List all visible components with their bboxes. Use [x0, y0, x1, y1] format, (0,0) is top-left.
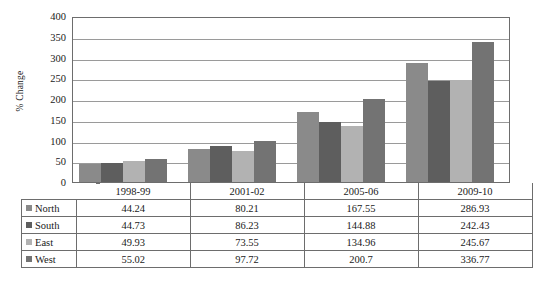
bar-north-1998-99: [79, 164, 101, 182]
bar-east-2001-02: [232, 151, 254, 182]
legend-swatch-icon-east: [26, 239, 32, 245]
table-row: North44.2480.21167.55286.93: [22, 200, 533, 217]
y-tick-label-50: 50: [26, 157, 66, 167]
chart-figure: % Change 400350300250200150100500 1998-9…: [0, 0, 540, 285]
table-cell-north-2005-06: 167.55: [304, 200, 418, 217]
plot-area: [72, 17, 510, 183]
legend-item-north: North: [22, 200, 77, 217]
table-cell-east-2001-02: 73.55: [190, 234, 304, 251]
bar-north-2005-06: [297, 112, 319, 182]
bar-group-2009-10: [400, 18, 509, 182]
bar-south-1998-99: [101, 163, 123, 182]
table-cell-south-2009-10: 242.43: [418, 217, 532, 234]
legend-item-east: East: [22, 234, 77, 251]
legend-swatch-icon-north: [26, 205, 32, 211]
y-axis-title: % Change: [15, 41, 25, 141]
table-period-header-2009-10: 2009-10: [418, 183, 532, 200]
table-cell-north-2009-10: 286.93: [418, 200, 532, 217]
table-header-row: 1998-992001-022005-062009-10: [22, 183, 533, 200]
legend-label: North: [35, 203, 60, 214]
table-cell-south-2005-06: 144.88: [304, 217, 418, 234]
y-axis-tick-labels: 400350300250200150100500: [26, 0, 66, 190]
legend-item-south: South: [22, 217, 77, 234]
table-cell-north-1998-99: 44.24: [77, 200, 191, 217]
bars-layer: [73, 18, 509, 182]
bar-group-2001-02: [182, 18, 291, 182]
data-table: 1998-992001-022005-062009-10North44.2480…: [21, 183, 533, 268]
table-corner-cell: [22, 183, 77, 200]
table-cell-west-2001-02: 97.72: [190, 251, 304, 268]
bar-north-2009-10: [406, 63, 428, 182]
y-tick-label-350: 350: [26, 33, 66, 43]
table-row: East49.9373.55134.96245.67: [22, 234, 533, 251]
table-cell-east-2005-06: 134.96: [304, 234, 418, 251]
table-cell-south-2001-02: 86.23: [190, 217, 304, 234]
legend-label: South: [35, 220, 60, 231]
table-cell-west-2005-06: 200.7: [304, 251, 418, 268]
bar-south-2009-10: [428, 81, 450, 182]
y-tick-label-300: 300: [26, 54, 66, 64]
y-tick-label-100: 100: [26, 137, 66, 147]
bar-group-1998-99: [73, 18, 182, 182]
bar-west-2001-02: [254, 141, 276, 182]
legend-swatch-icon-west: [26, 256, 32, 262]
y-tick-label-200: 200: [26, 95, 66, 105]
table-cell-north-2001-02: 80.21: [190, 200, 304, 217]
bar-south-2001-02: [210, 146, 232, 182]
table-cell-west-2009-10: 336.77: [418, 251, 532, 268]
table-period-header-2005-06: 2005-06: [304, 183, 418, 200]
table-period-header-1998-99: 1998-99: [77, 183, 191, 200]
table-period-header-2001-02: 2001-02: [190, 183, 304, 200]
table-cell-east-2009-10: 245.67: [418, 234, 532, 251]
bar-west-1998-99: [145, 159, 167, 182]
y-tick-label-400: 400: [26, 12, 66, 22]
bar-south-2005-06: [319, 122, 341, 182]
legend-label: West: [35, 254, 56, 265]
bar-north-2001-02: [188, 149, 210, 182]
legend-item-west: West: [22, 251, 77, 268]
table-cell-east-1998-99: 49.93: [77, 234, 191, 251]
bar-west-2009-10: [472, 42, 494, 182]
table-cell-west-1998-99: 55.02: [77, 251, 191, 268]
bar-east-2005-06: [341, 126, 363, 182]
table-row: South44.7386.23144.88242.43: [22, 217, 533, 234]
legend-swatch-icon-south: [26, 222, 32, 228]
table-cell-south-1998-99: 44.73: [77, 217, 191, 234]
legend-label: East: [35, 237, 53, 248]
y-tick-label-150: 150: [26, 116, 66, 126]
bar-east-2009-10: [450, 80, 472, 182]
bar-west-2005-06: [363, 99, 385, 182]
data-table-body: 1998-992001-022005-062009-10North44.2480…: [22, 183, 533, 268]
table-row: West55.0297.72200.7336.77: [22, 251, 533, 268]
y-tick-label-250: 250: [26, 74, 66, 84]
bar-group-2005-06: [291, 18, 400, 182]
bar-east-1998-99: [123, 161, 145, 182]
